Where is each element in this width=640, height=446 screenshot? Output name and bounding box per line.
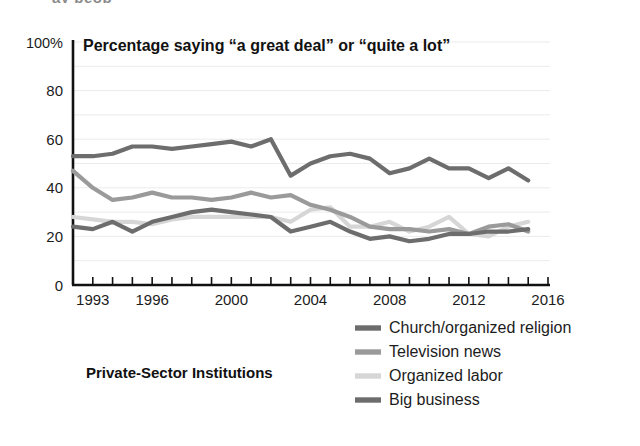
legend-label-organized-labor: Organized labor [389, 367, 504, 384]
cropped-top-text: ay peop [52, 0, 112, 3]
legend-label-church-organized-religion: Church/organized religion [389, 319, 571, 336]
x-axis-tick-label: 1996 [135, 291, 168, 308]
y-axis-tick-label: 40 [46, 179, 63, 196]
line-chart: 100%806040200 19931996200020042008201220… [0, 0, 640, 446]
x-axis-tick-label: 2016 [531, 291, 564, 308]
legend-item-big-business[interactable]: Big business [355, 391, 480, 408]
y-axis-tick-labels: 100%806040200 [26, 35, 63, 294]
legend-item-organized-labor[interactable]: Organized labor [355, 367, 504, 384]
figure-container: ay peop 100%806040200 199319962000200420… [0, 0, 640, 446]
legend[interactable]: Church/organized religionTelevision news… [355, 319, 571, 408]
y-axis-tick-label: 60 [46, 131, 63, 148]
panel-label: Private-Sector Institutions [86, 364, 273, 381]
legend-item-television-news[interactable]: Television news [355, 343, 501, 360]
x-axis-tick-label: 2008 [373, 291, 406, 308]
series-line-church-organized-religion [73, 139, 528, 180]
y-axis-tick-label: 100% [26, 35, 63, 51]
x-axis-tick-label: 2000 [215, 291, 248, 308]
data-series [73, 139, 528, 241]
legend-label-big-business: Big business [389, 391, 480, 408]
chart-title: Percentage saying “a great deal” or “qui… [83, 37, 450, 54]
x-axis-tick-label: 2004 [294, 291, 327, 308]
y-axis-tick-label: 80 [46, 82, 63, 99]
y-axis-tick-label: 0 [55, 277, 63, 294]
y-axis-tick-label: 20 [46, 228, 63, 245]
legend-label-television-news: Television news [389, 343, 501, 360]
x-axis-tick-label: 1993 [76, 291, 109, 308]
x-axis-tick-labels: 1993199620002004200820122016 [76, 291, 565, 308]
legend-item-church-organized-religion[interactable]: Church/organized religion [355, 319, 571, 336]
x-axis-tick-label: 2012 [452, 291, 485, 308]
